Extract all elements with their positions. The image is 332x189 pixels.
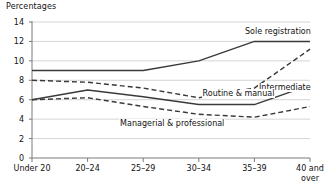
chart-container: Percentages 02468101214 Under 2020–2425–… (0, 0, 332, 189)
y-tick-label: 8 (8, 76, 24, 85)
series-label-3: Managerial & professional (119, 119, 225, 128)
y-tick-label: 6 (8, 95, 24, 104)
y-tick-label: 10 (8, 56, 24, 65)
x-tick-label: 35–39 (227, 164, 281, 174)
y-tick-label: 4 (8, 115, 24, 124)
y-tick-label: 12 (8, 37, 24, 46)
series-line-0 (32, 41, 310, 70)
y-tick-label: 2 (8, 134, 24, 143)
series-label-2: Routine & manual (202, 89, 276, 98)
x-tick-label: 25–29 (116, 164, 170, 174)
y-tick-label: 0 (8, 154, 24, 163)
x-tick-label: Under 20 (5, 164, 59, 174)
x-tick-label: 30–34 (172, 164, 226, 174)
x-tick-label: 40 and over (283, 164, 332, 184)
x-tick-label: 20–24 (61, 164, 115, 174)
y-tick-label: 14 (8, 18, 24, 27)
series-label-0: Sole registration (244, 27, 312, 36)
